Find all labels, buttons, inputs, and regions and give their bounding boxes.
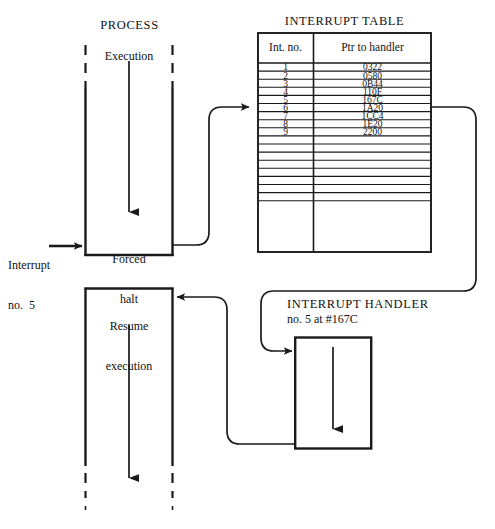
halt-to-table-arrow	[173, 107, 249, 245]
interrupt-source-line-2: no. 5	[8, 299, 70, 312]
forced-halt-line-1: Forced	[95, 253, 163, 266]
interrupt-flow-diagram: PROCESS INTERRUPT TABLE Execution Forced…	[0, 0, 495, 529]
resume-line-2: execution	[89, 360, 169, 373]
table-header-ptr: Ptr to handler	[314, 41, 431, 54]
interrupt-table-title: INTERRUPT TABLE	[258, 14, 431, 28]
table-cell-ptr: 2200	[314, 127, 431, 138]
execution-label: Execution	[89, 50, 169, 63]
table-header-int-no: Int. no.	[258, 41, 313, 54]
handler-to-resume-arrow	[177, 297, 295, 444]
process-title: PROCESS	[67, 18, 192, 32]
resume-line-1: Resume	[89, 320, 169, 333]
resume-execution-label: Resume execution	[89, 293, 169, 401]
interrupt-source-line-1: Interrupt	[8, 259, 70, 272]
interrupt-handler-title: INTERRUPT HANDLER	[287, 297, 429, 311]
interrupt-source-label: Interrupt no. 5	[8, 232, 70, 340]
interrupt-handler-subtitle: no. 5 at #167C	[287, 313, 358, 326]
table-cell-int-no: 9	[258, 127, 313, 138]
